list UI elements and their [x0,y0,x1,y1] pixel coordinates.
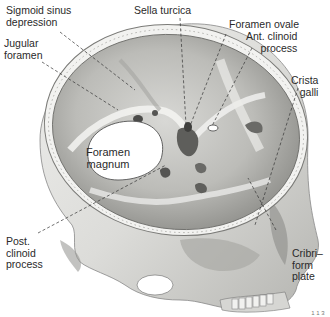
label-ant-clinoid-process: Ant. clinoid process [246,31,297,54]
label-cribriform-plate: Cribri– form plate [292,248,323,283]
label-post-clinoid-process: Post. clinoid process [6,236,43,271]
skull-diagram: 1 1 3 Sigmoid sinus depression Jugular f… [0,0,330,317]
label-foramen-ovale: Foramen ovale [229,19,299,31]
label-crista-galli: Crista galli [291,75,318,98]
label-foramen-magnum: Foramen magnum [86,146,130,170]
label-sella-turcica: Sella turcica [134,5,191,17]
page-number: 1 1 3 [311,310,325,316]
label-sigmoid-sinus-depression: Sigmoid sinus depression [6,5,71,28]
label-jugular-foramen: Jugular foramen [4,38,43,61]
